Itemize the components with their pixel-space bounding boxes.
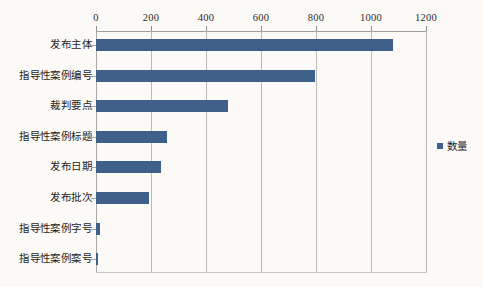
x-axis-tick-label: 1200 [415, 12, 437, 23]
y-axis-category-label: 指导性案例编号 [0, 70, 92, 82]
gridline [426, 31, 427, 272]
gridline [96, 31, 97, 272]
gridline [151, 31, 152, 272]
y-axis-category-label: 发布批次 [0, 192, 92, 204]
y-axis-category-label: 发布主体 [0, 39, 92, 51]
bar [96, 192, 149, 204]
y-axis-category-label: 发布日期 [0, 161, 92, 173]
x-axis-tick-label: 200 [143, 12, 160, 23]
gridline [261, 31, 262, 272]
legend-square-marker [437, 143, 443, 149]
bar [96, 100, 228, 112]
bar [96, 223, 100, 235]
bar [96, 70, 315, 82]
bar [96, 253, 98, 265]
bar [96, 131, 167, 143]
y-axis-category-label: 裁判要点 [0, 100, 92, 112]
bar-chart: 020040060080010001200 发布主体指导性案例编号裁判要点指导性… [0, 0, 483, 287]
y-axis-category-label: 指导性案例字号 [0, 223, 92, 235]
gridline [206, 31, 207, 272]
legend: 数量 [437, 138, 468, 153]
y-axis-category-label: 指导性案例标题 [0, 131, 92, 143]
y-axis-category-labels: 发布主体指导性案例编号裁判要点指导性案例标题发布日期发布批次指导性案例字号指导性… [0, 31, 92, 272]
gridline [371, 31, 372, 272]
plot-area [96, 31, 426, 272]
x-axis-tick-label: 0 [93, 12, 99, 23]
plot-bottom-line [96, 272, 427, 273]
y-axis-category-label: 指导性案例案号 [0, 253, 92, 265]
x-axis-tick-label: 600 [253, 12, 270, 23]
x-axis-tick-label: 1000 [360, 12, 382, 23]
bar [96, 39, 393, 51]
gridline [316, 31, 317, 272]
bar [96, 161, 161, 173]
legend-label: 数量 [447, 138, 468, 153]
x-axis-tick-label: 400 [198, 12, 215, 23]
x-axis-tick-label: 800 [308, 12, 325, 23]
